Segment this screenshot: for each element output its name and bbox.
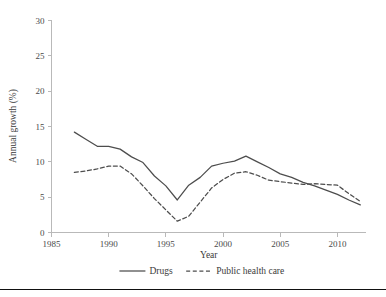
x-tick-label: 1990 [100,239,119,249]
x-tick-label: 2000 [214,239,233,249]
series-line-drugs [74,132,360,205]
legend-label-drugs: Drugs [149,266,173,276]
y-axis-tick-group: 051015202530 [36,16,52,238]
chart-legend: DrugsPublic health care [119,266,284,276]
x-tick-label: 1985 [43,239,62,249]
y-tick-label: 10 [36,157,46,167]
x-tick-label: 2010 [328,239,347,249]
y-tick-label: 30 [36,16,46,26]
x-axis-tick-group: 198519901995200020052010 [43,233,347,249]
legend-label-public-health-care: Public health care [216,266,284,276]
y-tick-label: 5 [40,192,45,202]
y-tick-label: 0 [40,228,45,238]
line-chart: 051015202530 198519901995200020052010 An… [0,0,386,297]
chart-figure: 051015202530 198519901995200020052010 An… [0,0,386,297]
y-tick-label: 15 [36,122,46,132]
y-tick-label: 20 [36,86,46,96]
y-tick-label: 25 [36,51,46,61]
x-axis-title: Year [200,250,218,260]
series-group [74,132,360,221]
x-tick-label: 2005 [271,239,290,249]
series-line-public-health-care [74,166,360,221]
y-axis-title: Annual growth (%) [8,89,19,163]
x-tick-label: 1995 [157,239,176,249]
